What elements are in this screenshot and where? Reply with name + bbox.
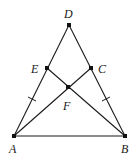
point-b <box>123 134 127 138</box>
segment-be <box>47 68 125 136</box>
label-f: F <box>62 99 71 113</box>
label-a: A <box>8 142 17 156</box>
point-a <box>12 134 16 138</box>
segment-ac <box>14 68 91 136</box>
label-b: B <box>121 142 129 156</box>
label-e: E <box>30 62 39 76</box>
label-d: D <box>63 7 73 21</box>
point-e <box>45 66 49 70</box>
label-c: C <box>98 62 107 76</box>
point-f <box>66 85 70 89</box>
triangle-diagram: D E C F A B <box>0 0 137 160</box>
point-d <box>67 23 71 27</box>
point-c <box>89 66 93 70</box>
